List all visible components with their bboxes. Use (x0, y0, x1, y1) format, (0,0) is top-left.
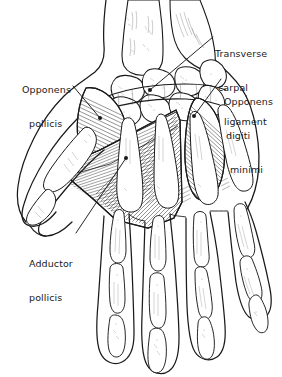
dot-opponens-pollicis (98, 116, 102, 120)
hand-anatomy-figure: Opponens pollicis Transverse carpal liga… (0, 0, 282, 377)
label-adductor-pollicis-line2: pollicis (29, 292, 73, 303)
label-odm-line1: Opponens (224, 96, 273, 107)
label-opponens-pollicis-line1: Opponens (22, 84, 71, 95)
index-middle-phalanx (109, 264, 125, 314)
label-tcl-line1: Transverse (215, 48, 267, 59)
dot-opponens-digiti-minimi (192, 114, 196, 118)
label-odm-line2: digiti (224, 130, 273, 141)
dot-transverse-carpal-ligament (148, 88, 152, 92)
label-opponens-digiti-minimi: Opponens digiti minimi (224, 74, 273, 197)
dot-adductor-pollicis (124, 156, 128, 160)
radius-bone (122, 0, 163, 75)
label-opponens-pollicis-line2: pollicis (22, 118, 71, 129)
index-distal-phalanx (108, 315, 125, 357)
middle-proximal-phalanx (150, 216, 166, 272)
label-adductor-pollicis-line1: Adductor (29, 258, 73, 269)
middle-distal-phalanx (148, 328, 166, 373)
label-opponens-pollicis: Opponens pollicis (22, 62, 71, 152)
label-odm-line3: minimi (224, 164, 273, 175)
label-adductor-pollicis: Adductor pollicis (29, 236, 73, 326)
middle-middle-phalanx (149, 273, 166, 328)
